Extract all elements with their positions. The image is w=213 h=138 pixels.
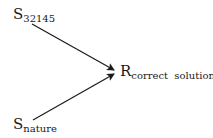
node-snature-sub: nature bbox=[23, 123, 57, 134]
edge-snature-to-rcorrect bbox=[33, 74, 114, 120]
node-rcorrect-sub: correct solution bbox=[131, 70, 213, 81]
node-snature: Snature bbox=[13, 116, 57, 132]
node-s32145-main: S bbox=[13, 5, 23, 23]
edge-s32145-to-rcorrect bbox=[32, 24, 114, 70]
node-s32145-sub: 32145 bbox=[23, 13, 55, 24]
node-s32145: S32145 bbox=[13, 6, 55, 22]
node-rcorrect: Rcorrect solution bbox=[120, 63, 213, 79]
node-rcorrect-main: R bbox=[120, 62, 131, 80]
node-snature-main: S bbox=[13, 115, 23, 133]
